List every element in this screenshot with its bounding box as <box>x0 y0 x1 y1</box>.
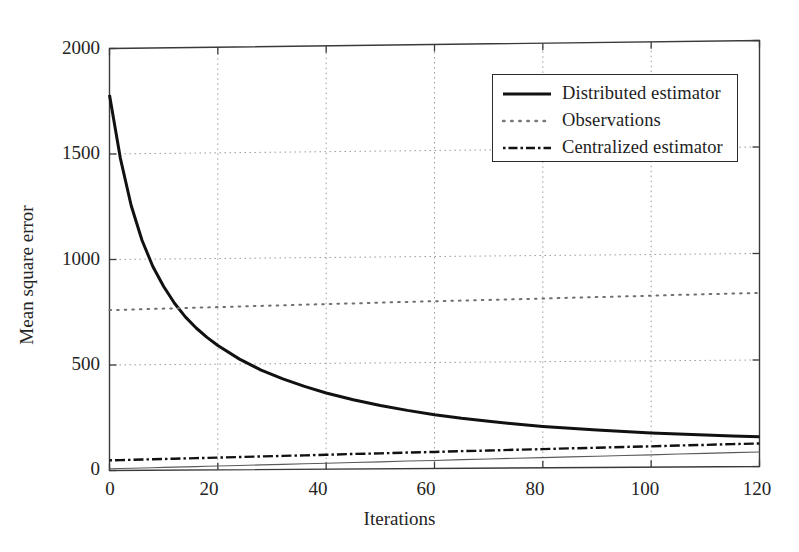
figure-canvas: Mean square error 2000 1500 1000 500 0 0… <box>0 0 799 552</box>
legend-item-distributed-estimator: Distributed estimator <box>501 80 721 107</box>
x-axis-label: Iterations <box>0 508 799 530</box>
legend: Distributed estimator Observations Centr… <box>492 74 738 162</box>
legend-label-observations: Observations <box>562 110 661 131</box>
legend-label-distributed-estimator: Distributed estimator <box>562 83 721 104</box>
gridline-horizontal <box>110 360 760 365</box>
legend-sample-solid-icon <box>501 87 553 101</box>
gridline-horizontal <box>110 254 760 260</box>
legend-label-centralized-estimator: Centralized estimator <box>562 137 723 158</box>
legend-item-observations: Observations <box>501 107 661 134</box>
legend-sample-dashdot-icon <box>501 141 553 155</box>
legend-item-centralized-estimator: Centralized estimator <box>501 134 723 161</box>
legend-sample-dotted-icon <box>501 114 553 128</box>
